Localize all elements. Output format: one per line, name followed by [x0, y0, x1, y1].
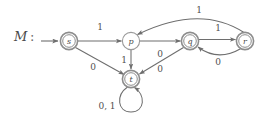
state-q-inner-circle [184, 35, 197, 48]
edge-r-q [198, 47, 241, 55]
automaton-diagram: M : s p q r t 1 0 0 1 1 0 0 1 0, 1 [0, 0, 272, 117]
state-s-inner-circle [63, 35, 76, 48]
edge-t-self-loop [120, 87, 143, 112]
machine-name-label: M [14, 29, 27, 44]
state-r-inner-circle [239, 35, 252, 48]
edge-s-t [76, 48, 125, 75]
machine-name-separator: : [30, 29, 34, 44]
automaton-graphics [0, 0, 272, 117]
state-t-inner-circle [125, 73, 138, 86]
edge-q-t [140, 48, 184, 75]
state-p-outer-circle [122, 32, 139, 49]
